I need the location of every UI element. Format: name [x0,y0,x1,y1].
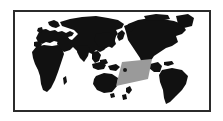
pacific-highlight-region [116,59,152,86]
figure-root [0,0,223,121]
north-america-landmass [126,18,186,66]
south-america-landmass [159,68,188,104]
location-marker-dot [123,68,127,72]
madagascar-landmass [63,76,67,85]
landmass-layer [32,14,194,104]
scandinavia-landmass [48,20,60,28]
new-zealand-south-landmass [122,94,127,100]
highlight-layer [116,59,152,86]
marker-layer [123,68,127,72]
tasmania-landmass [110,93,115,98]
africa-landmass [32,45,64,92]
australia-landmass [93,73,118,93]
map-frame [13,10,211,112]
new-guinea-landmass [108,64,120,71]
world-map-canvas [15,12,209,110]
japan-landmass [117,30,125,41]
caribbean-landmass [164,61,174,66]
southeast-asia-landmass [92,51,101,63]
new-zealand-landmass [126,86,132,94]
india-landmass [77,45,90,62]
